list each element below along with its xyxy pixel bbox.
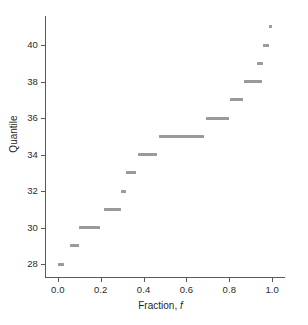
x-axis-title-variable: f — [180, 300, 183, 311]
x-tick-label: 0.0 — [38, 284, 78, 295]
x-tick-label: 0.6 — [166, 284, 206, 295]
x-tick-mark — [58, 278, 59, 282]
data-segment — [230, 98, 242, 101]
data-segment — [104, 208, 121, 211]
y-tick-mark — [41, 228, 45, 229]
data-segment — [206, 117, 230, 120]
y-tick-label: 32 — [14, 186, 38, 196]
y-axis-line — [45, 16, 46, 278]
y-axis-title: Quantile — [8, 94, 20, 174]
y-tick-mark — [41, 82, 45, 83]
data-segment — [159, 135, 204, 138]
x-axis-title: Fraction, f — [46, 300, 275, 312]
data-segment — [126, 171, 136, 174]
data-segment — [257, 62, 263, 65]
x-tick-mark — [229, 278, 230, 282]
quantile-fraction-chart: 28303234363840 0.00.20.40.60.81.0 Fracti… — [0, 0, 308, 325]
x-tick-label: 0.8 — [209, 284, 249, 295]
data-segment — [79, 226, 100, 229]
data-segment — [244, 80, 262, 83]
data-segment — [138, 153, 157, 156]
x-tick-label: 1.0 — [252, 284, 292, 295]
x-tick-mark — [101, 278, 102, 282]
y-tick-mark — [41, 155, 45, 156]
x-tick-mark — [272, 278, 273, 282]
y-tick-mark — [41, 191, 45, 192]
y-tick-mark — [41, 45, 45, 46]
x-axis-line — [45, 277, 285, 278]
data-segment — [70, 244, 79, 247]
x-tick-label: 0.4 — [124, 284, 164, 295]
x-tick-label: 0.2 — [81, 284, 121, 295]
x-tick-mark — [186, 278, 187, 282]
y-tick-mark — [41, 118, 45, 119]
y-tick-label: 28 — [14, 259, 38, 269]
y-tick-mark — [41, 264, 45, 265]
data-segment — [121, 190, 126, 193]
data-segment — [269, 25, 272, 28]
x-axis-title-text: Fraction, — [138, 300, 177, 311]
y-tick-label: 30 — [14, 223, 38, 233]
y-tick-label: 40 — [14, 40, 38, 50]
x-tick-mark — [144, 278, 145, 282]
data-segment — [58, 263, 64, 266]
y-tick-label: 38 — [14, 77, 38, 87]
data-segment — [263, 44, 269, 47]
